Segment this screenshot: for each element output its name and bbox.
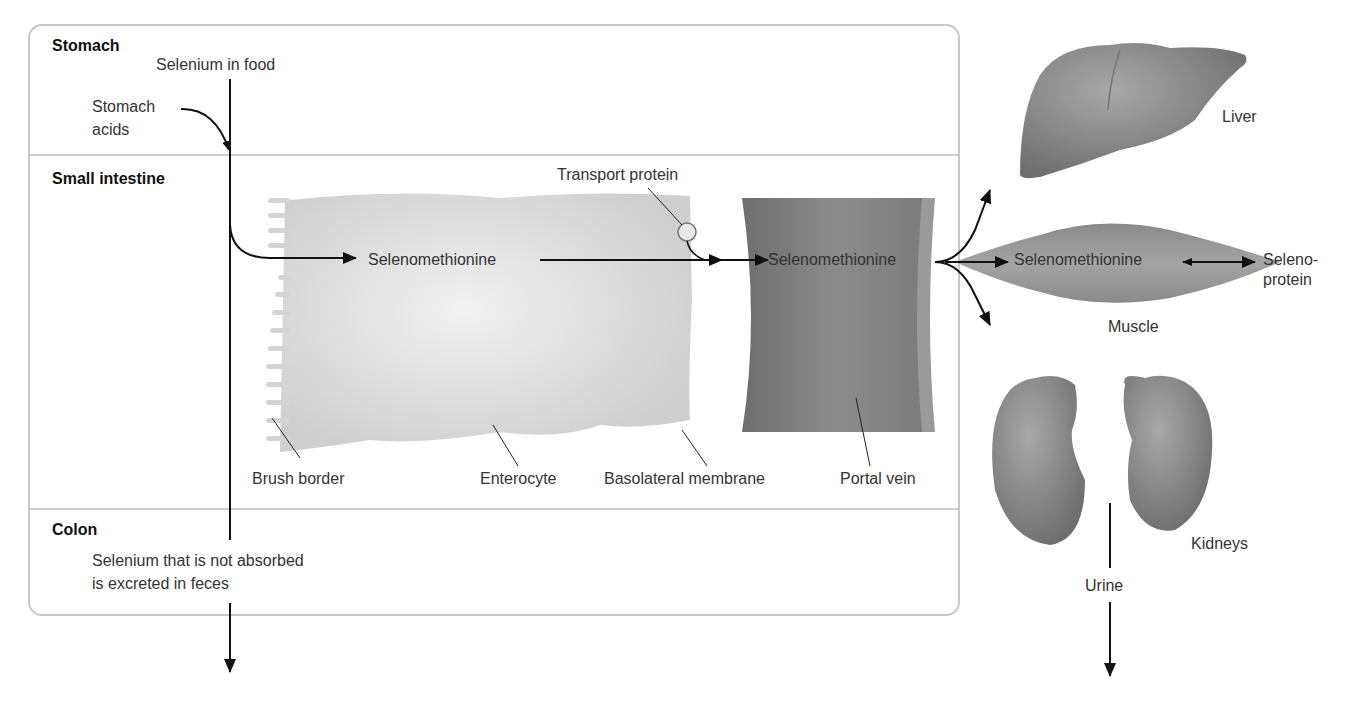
label-selenoprotein-1: Seleno-: [1263, 250, 1318, 270]
label-portal-vein: Portal vein: [840, 469, 916, 489]
label-selenomethionine-enterocyte: Selenomethionine: [368, 250, 496, 270]
label-selenomethionine-portal: Selenomethionine: [768, 250, 896, 270]
to-liver-arrow: [935, 190, 990, 262]
label-selenium-in-food: Selenium in food: [156, 55, 275, 75]
section-title-colon: Colon: [52, 521, 97, 539]
label-liver: Liver: [1222, 107, 1257, 127]
label-enterocyte: Enterocyte: [480, 469, 556, 489]
label-brush-border: Brush border: [252, 469, 345, 489]
label-urine: Urine: [1085, 576, 1123, 596]
liver-illustration: [1020, 43, 1247, 178]
label-muscle: Muscle: [1108, 317, 1159, 337]
label-colon-note-2: is excreted in feces: [92, 574, 229, 594]
label-colon-note-1: Selenium that is not absorbed: [92, 551, 304, 571]
stomach-acids-arrow: [181, 109, 229, 150]
portal-vein-shape: [742, 198, 935, 432]
enterocyte-cell: [266, 193, 692, 452]
kidneys-illustration: [992, 376, 1212, 545]
label-selenomethionine-muscle: Selenomethionine: [1014, 250, 1142, 270]
label-kidneys: Kidneys: [1191, 534, 1248, 554]
section-title-small-intestine: Small intestine: [52, 170, 165, 188]
transport-protein-circle: [678, 223, 696, 241]
diagram-graphics: [0, 0, 1351, 706]
label-basolateral-membrane: Basolateral membrane: [604, 469, 765, 489]
label-selenoprotein-2: protein: [1263, 270, 1312, 290]
label-stomach-acids-2: acids: [92, 120, 129, 140]
section-title-stomach: Stomach: [52, 37, 120, 55]
label-stomach-acids-1: Stomach: [92, 97, 155, 117]
label-transport-protein: Transport protein: [557, 165, 678, 185]
